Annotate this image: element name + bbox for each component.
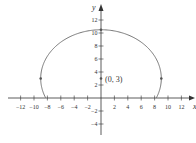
marked-point xyxy=(39,77,42,80)
marked-point xyxy=(100,77,103,80)
marked-point xyxy=(160,77,163,80)
y-tick-label: 2 xyxy=(95,82,98,88)
x-tick-label: 6 xyxy=(140,104,143,110)
y-tick-label: 12 xyxy=(92,17,98,23)
y-axis-label: y xyxy=(91,3,96,12)
y-tick-label: 10 xyxy=(92,30,98,36)
x-tick-label: 4 xyxy=(126,104,129,110)
x-tick-label: −12 xyxy=(16,104,25,110)
x-tick-label: 12 xyxy=(178,104,184,110)
center-label: (0, 3) xyxy=(105,75,123,84)
y-tick-label: 4 xyxy=(95,69,98,75)
x-tick-label: −4 xyxy=(71,104,77,110)
x-tick-label: −10 xyxy=(29,104,38,110)
y-tick-label: −2 xyxy=(91,108,97,114)
y-tick-label: 8 xyxy=(95,43,98,49)
x-axis-arrow-icon xyxy=(189,96,195,101)
x-tick-label: −8 xyxy=(44,104,50,110)
x-axis-label: x xyxy=(192,102,196,111)
y-tick-label: 6 xyxy=(95,56,98,62)
marked-point xyxy=(100,28,103,31)
x-tick-label: −6 xyxy=(58,104,64,110)
x-tick-label: 2 xyxy=(113,104,116,110)
y-tick-label: −4 xyxy=(91,121,97,127)
x-tick-label: 10 xyxy=(165,104,171,110)
y-axis-arrow-icon xyxy=(99,4,104,11)
x-tick-label: −2 xyxy=(84,104,90,110)
x-tick-label: 8 xyxy=(153,104,156,110)
graph-figure: xy−12−10−8−6−4−224681012−4−224681012(0, … xyxy=(0,0,196,143)
coordinate-plane: xy−12−10−8−6−4−224681012−4−224681012(0, … xyxy=(0,0,196,143)
